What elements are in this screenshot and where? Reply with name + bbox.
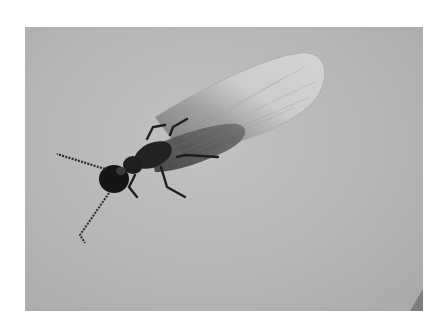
termite-illustration (25, 27, 423, 311)
antenna-right (80, 193, 109, 243)
corner-shadow (410, 289, 423, 311)
insect-photo (25, 27, 423, 311)
eye (116, 167, 126, 175)
antenna-left (57, 154, 105, 169)
